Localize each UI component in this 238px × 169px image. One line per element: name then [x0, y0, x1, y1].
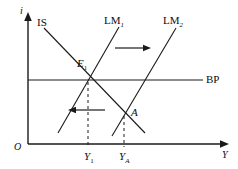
y-axis-arrowhead — [24, 12, 32, 21]
point-a-label: A — [131, 107, 138, 118]
x-tick-label-ya: YA — [119, 151, 129, 165]
adjustment-left-arrow — [68, 107, 105, 113]
x-axis-label: Y — [222, 150, 228, 160]
lm-shift-right-arrow — [115, 45, 151, 51]
bp-curve-label: BP — [206, 74, 219, 85]
lm2-curve — [112, 28, 176, 136]
x-tick-label-y1: Y1 — [84, 151, 94, 165]
y-axis — [24, 12, 32, 144]
origin-label: O — [14, 142, 21, 152]
is-lm-bp-figure: i Y O IS LM1 LM2 BP E1 A Y1 YA — [0, 0, 238, 169]
x-axis — [28, 140, 229, 148]
is-curve-label: IS — [37, 17, 47, 28]
equilibrium-point-e1-label: E1 — [77, 58, 87, 72]
lm1-curve-label: LM1 — [104, 15, 124, 29]
lm2-curve-label: LM2 — [163, 15, 183, 29]
x-axis-arrowhead — [220, 140, 229, 148]
y-axis-label: i — [20, 6, 23, 16]
